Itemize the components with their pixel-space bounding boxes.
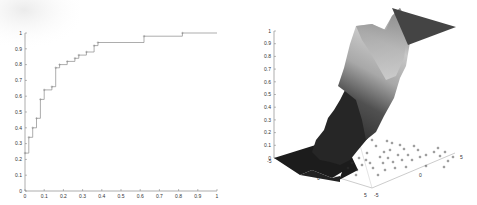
- roc-marker: [35, 117, 37, 119]
- scatter-marker: [394, 167, 397, 170]
- x-tick-label: 0.4: [98, 193, 105, 199]
- z-tick-label: 1: [268, 28, 271, 34]
- scatter-marker: [384, 169, 387, 172]
- scatter-marker: [452, 156, 455, 159]
- y-tick-label: 0.9: [15, 46, 22, 52]
- y-tick-label: 0.1: [15, 172, 22, 178]
- x-tick-label: 0.7: [156, 193, 163, 199]
- y-tick-label: 0.2: [15, 156, 22, 162]
- scatter-marker: [413, 145, 416, 148]
- y-floor-axis: [372, 153, 455, 188]
- y-tick-label: 0.5: [15, 109, 22, 115]
- roc-marker: [58, 63, 60, 65]
- roc-marker: [181, 32, 183, 34]
- z-tick-label: 0.2: [264, 129, 271, 135]
- scatter-marker: [382, 162, 385, 165]
- roc-marker: [31, 127, 33, 129]
- scatter-marker: [383, 151, 386, 154]
- scatter-marker: [355, 174, 358, 177]
- scatter-marker: [361, 164, 364, 167]
- scatter-marker: [387, 157, 390, 160]
- roc-marker: [74, 57, 76, 59]
- scatter-marker: [389, 149, 392, 152]
- y-tick-label: 0: [19, 188, 22, 194]
- scatter-marker: [443, 166, 446, 169]
- roc-marker: [28, 136, 30, 138]
- y-tick-label: 0: [419, 172, 422, 178]
- x-tick-label: 0.3: [79, 193, 86, 199]
- x-tick-label: 1: [216, 193, 219, 199]
- x-tick-label: 0: [24, 193, 27, 199]
- scatter-marker: [405, 166, 408, 169]
- x-tick-label: 0.9: [194, 193, 201, 199]
- roc-marker: [93, 44, 95, 46]
- x-tick-label: 0.5: [118, 193, 125, 199]
- roc-marker: [43, 89, 45, 91]
- z-tick-label: 0.9: [264, 40, 271, 46]
- z-tick-label: 0.7: [264, 66, 271, 72]
- z-tick-label: 0.8: [264, 53, 271, 59]
- scatter-marker: [437, 147, 440, 150]
- scatter-marker: [377, 174, 380, 177]
- roc-marker: [55, 67, 57, 69]
- scatter-marker: [401, 159, 404, 162]
- x-tick-label: 0.1: [41, 193, 48, 199]
- y-tick-label: 0.3: [15, 140, 22, 146]
- scatter-marker: [433, 151, 436, 154]
- scatter-marker: [399, 144, 402, 147]
- scatter-marker: [375, 145, 378, 148]
- scatter-marker: [444, 151, 447, 154]
- scatter-marker: [447, 160, 450, 163]
- scatter-marker: [439, 155, 442, 158]
- scatter-marker: [372, 167, 375, 170]
- roc-marker: [66, 60, 68, 62]
- scatter-marker: [386, 140, 389, 143]
- x-ticks: 00.10.20.30.40.50.60.70.80.91: [24, 189, 219, 199]
- y-tick-label: 0.6: [15, 93, 22, 99]
- z-tick-label: 0.4: [264, 104, 271, 110]
- scatter-marker: [391, 142, 394, 145]
- z-tick-label: 0.1: [264, 142, 271, 148]
- scatter-marker: [379, 156, 382, 159]
- z-tick-label: 0.3: [264, 117, 271, 123]
- roc-curve: [25, 33, 217, 153]
- scatter-marker: [369, 162, 372, 165]
- scatter-marker: [411, 159, 414, 162]
- roc-plot: 00.10.20.30.40.50.60.70.80.91 00.10.20.3…: [15, 30, 219, 199]
- scatter-marker: [392, 161, 395, 164]
- roc-marker: [24, 152, 26, 154]
- roc-marker: [39, 98, 41, 100]
- scatter-marker: [397, 154, 400, 157]
- roc-marker: [97, 41, 99, 43]
- scatter-marker: [417, 149, 420, 152]
- scatter-marker: [419, 156, 422, 159]
- z-tick-label: 0.6: [264, 79, 271, 85]
- roc-marker: [85, 51, 87, 53]
- scatter-marker: [365, 159, 368, 162]
- x-tick-label: 0.8: [175, 193, 182, 199]
- roc-marker: [51, 86, 53, 88]
- scatter-marker: [371, 139, 374, 142]
- y-tick-label: 0.4: [15, 125, 22, 131]
- y-tick-label: 1: [19, 30, 22, 36]
- roc-markers: [24, 32, 184, 154]
- x-tick-label: -5: [267, 158, 272, 164]
- x-tick-label: 0.6: [137, 193, 144, 199]
- surface-3d-plot: 00.10.20.30.40.50.60.70.80.91 -5 0 5 -5 …: [264, 8, 463, 198]
- y-tick-label: 5: [460, 154, 463, 160]
- roc-marker: [143, 35, 145, 37]
- scatter-marker: [407, 154, 410, 157]
- x-tick-label: 0.2: [60, 193, 67, 199]
- roc-marker: [78, 54, 80, 56]
- x-tick-label: 5: [364, 192, 367, 198]
- scatter-marker: [425, 154, 428, 157]
- scatter-marker: [366, 152, 369, 155]
- scatter-marker: [358, 157, 361, 160]
- y-tick-label: -5: [374, 192, 379, 198]
- figure: 00.10.20.30.40.50.60.70.80.91 00.10.20.3…: [0, 0, 477, 205]
- background-blur: [0, 0, 80, 50]
- scatter-points: [347, 139, 455, 177]
- y-tick-label: 0.7: [15, 77, 22, 83]
- y-tick-label: 0.8: [15, 61, 22, 67]
- z-tick-label: 0.5: [264, 91, 271, 97]
